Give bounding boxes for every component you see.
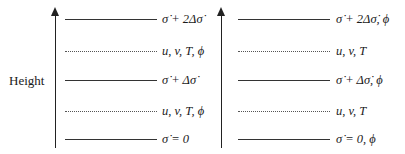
left-level-label-3: σ̇ + Δσ̇	[162, 73, 196, 87]
left-level-line-5	[65, 139, 157, 140]
right-level-line-5	[238, 139, 330, 140]
right-level-line-2	[238, 51, 330, 52]
left-level-line-1	[65, 19, 157, 20]
right-level-label-2: u, v, T	[336, 44, 366, 58]
left-level-line-3	[65, 80, 157, 81]
right-level-label-3: σ̇ + Δσ̇, ϕ	[336, 73, 383, 87]
left-level-label-1: σ̇ + 2Δσ̇	[162, 12, 203, 26]
right-level-line-4	[238, 111, 330, 112]
left-level-label-4: u, v, T, ϕ	[162, 104, 204, 118]
left-vertical-axis	[55, 14, 57, 148]
left-level-line-2	[65, 51, 157, 52]
right-level-label-4: u, v, T	[336, 104, 366, 118]
right-level-label-1: σ̇ + 2Δσ̇, ϕ	[336, 12, 389, 26]
right-level-line-3	[238, 80, 330, 81]
left-level-line-4	[65, 111, 157, 112]
left-level-label-2: u, v, T, ϕ	[162, 44, 204, 58]
right-level-label-5: σ̇ = 0, ϕ	[336, 132, 376, 146]
right-level-line-1	[238, 19, 330, 20]
left-level-label-5: σ̇ = 0	[162, 132, 189, 146]
height-axis-label: Height	[9, 73, 44, 89]
right-vertical-axis	[221, 14, 223, 148]
